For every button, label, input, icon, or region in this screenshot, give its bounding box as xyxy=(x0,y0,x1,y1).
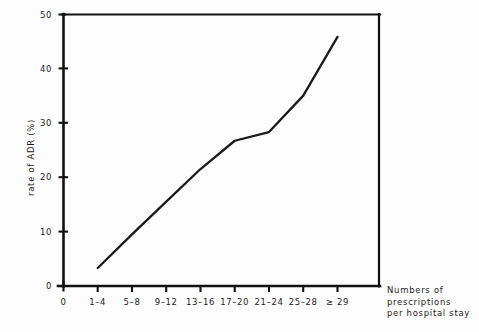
y-tick-label: 0 xyxy=(30,281,52,291)
chart-figure: 50 40 30 20 10 0 rate of ADR (%) 0 1–4 5… xyxy=(0,0,479,332)
chart-background xyxy=(0,0,479,332)
y-tick-label: 50 xyxy=(30,10,52,20)
y-tick-label: 10 xyxy=(30,227,52,237)
y-tick-label: 40 xyxy=(30,64,52,74)
x-axis-title-line-2: prescriptions xyxy=(387,297,470,309)
y-axis-title: rate of ADR (%) xyxy=(26,119,36,196)
x-tick-label: ≥ 29 xyxy=(316,297,360,307)
chart-plot-svg xyxy=(0,0,479,332)
x-axis-title-line-1: Numbers of xyxy=(387,285,470,297)
x-axis-title-line-3: per hospital stay xyxy=(387,308,470,320)
x-axis-title: Numbers of prescriptions per hospital st… xyxy=(387,285,470,320)
